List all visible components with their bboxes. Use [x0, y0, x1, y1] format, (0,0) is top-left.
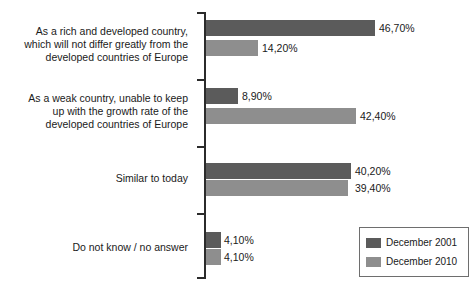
category-label-1: As a weak country, unable to keep up wit… — [0, 92, 188, 131]
category-label-3: Do not know / no answer — [0, 241, 188, 254]
category-label-1-line-1: up with the growth rate of the — [0, 105, 188, 118]
legend-swatch-december-2010 — [366, 257, 381, 267]
axis-tick-top — [197, 12, 205, 14]
axis-tick-1 — [197, 79, 205, 81]
category-label-2: Similar to today — [0, 172, 188, 185]
bar-value-1-december-2010: 42,40% — [360, 108, 396, 124]
bar-0-december-2001 — [206, 20, 375, 36]
category-label-2-line-0: Similar to today — [0, 172, 188, 185]
category-label-0-line-1: which will not differ greatly from the — [0, 38, 188, 51]
bar-value-0-december-2010: 14,20% — [262, 40, 298, 56]
legend-item-december-2010[interactable]: December 2010 — [366, 252, 462, 271]
bar-0-december-2010 — [206, 40, 258, 56]
legend-label-december-2010: December 2010 — [386, 256, 457, 267]
bar-chart: As a rich and developed country, which w… — [0, 0, 475, 293]
legend-swatch-december-2001 — [366, 238, 381, 248]
legend-item-december-2001[interactable]: December 2001 — [366, 233, 462, 252]
axis-tick-2 — [197, 146, 205, 148]
chart-legend: December 2001 December 2010 — [359, 227, 469, 277]
bar-value-2-december-2001: 40,20% — [355, 163, 391, 179]
bar-1-december-2010 — [206, 108, 356, 124]
bar-value-0-december-2001: 46,70% — [379, 20, 415, 36]
bar-1-december-2001 — [206, 88, 238, 104]
bar-3-december-2010 — [206, 249, 221, 265]
category-label-0-line-0: As a rich and developed country, — [0, 25, 188, 38]
category-label-0: As a rich and developed country, which w… — [0, 25, 188, 64]
axis-tick-3 — [197, 213, 205, 215]
bar-value-3-december-2010: 4,10% — [224, 249, 254, 265]
axis-tick-bottom — [197, 277, 205, 279]
category-label-3-line-0: Do not know / no answer — [0, 241, 188, 254]
category-label-0-line-2: developed countries of Europe — [0, 51, 188, 64]
category-label-1-line-2: developed countries of Europe — [0, 118, 188, 131]
bar-3-december-2001 — [206, 232, 221, 248]
bar-value-2-december-2010: 39,40% — [355, 180, 391, 196]
category-label-1-line-0: As a weak country, unable to keep — [0, 92, 188, 105]
bar-2-december-2001 — [206, 163, 351, 179]
legend-label-december-2001: December 2001 — [386, 237, 457, 248]
bar-value-1-december-2001: 8,90% — [242, 88, 272, 104]
bar-2-december-2010 — [206, 180, 348, 196]
bar-value-3-december-2001: 4,10% — [224, 232, 254, 248]
